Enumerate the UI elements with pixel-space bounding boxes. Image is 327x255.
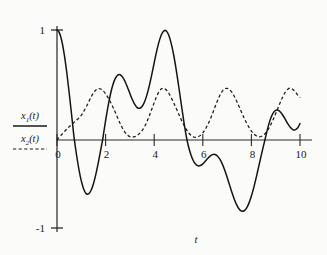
x-tick-label-0: 0 [55,148,61,160]
x-tick-label-2: 2 [104,148,110,160]
chart-plot: -11 0246810 t x1(t) x2(t) [0,0,327,255]
x-tick-label-8: 8 [250,148,256,160]
x-tick-label-6: 6 [201,148,207,160]
y-tick-label--1: -1 [36,222,45,234]
x-tick-label-4: 4 [152,148,158,160]
figure-container: -11 0246810 t x1(t) x2(t) [0,0,327,255]
y-tick-label-1: 1 [40,24,46,36]
plot-background [0,0,327,255]
x-tick-label-10: 10 [296,148,308,160]
